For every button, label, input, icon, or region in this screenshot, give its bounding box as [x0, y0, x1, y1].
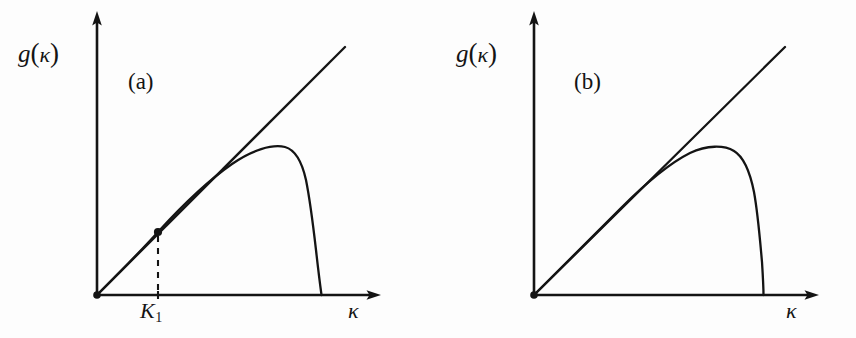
- panel-a-y-axis-label-kappa: κ: [40, 42, 51, 67]
- panel-b-label: (b): [574, 70, 601, 93]
- panel-a-label: (a): [128, 70, 154, 93]
- panel-b-y-axis: [529, 11, 539, 295]
- panel-a-x-axis-label: κ: [348, 300, 359, 322]
- panel-a-origin-dot: [93, 291, 101, 299]
- panel-b-x-axis-label: κ: [786, 300, 797, 322]
- panel-a-tick-label-base: K: [140, 298, 155, 323]
- panel-a-tick-label-k1: K1: [140, 300, 162, 325]
- panel-b-y-axis-label-kappa: κ: [478, 42, 489, 67]
- panel-b-y-axis-label-close-paren: ): [488, 38, 497, 68]
- panel-a-tangency-dot: [154, 228, 162, 236]
- panel-b-y-axis-label-open-paren: (: [469, 38, 478, 68]
- panel-a-plot: [0, 0, 428, 338]
- panel-a-y-axis-label-g: g: [18, 40, 31, 67]
- panel-b-y-axis-label: g(κ): [456, 40, 497, 67]
- panel-a-y-axis: [92, 11, 102, 295]
- panel-a: g(κ) (a) K1 κ: [0, 0, 428, 338]
- panel-a-y-axis-label: g(κ): [18, 40, 59, 67]
- panel-b-origin-dot: [530, 291, 538, 299]
- panel-b-g-curve: [534, 147, 764, 295]
- panel-a-g-curve: [97, 146, 322, 295]
- panel-a-y-axis-label-open-paren: (: [31, 38, 40, 68]
- panel-b: g(κ) (b) κ: [428, 0, 856, 338]
- panel-b-y-axis-label-g: g: [456, 40, 469, 67]
- panel-b-x-axis: [534, 290, 819, 300]
- panel-a-y-axis-label-close-paren: ): [50, 38, 59, 68]
- figure-root: g(κ) (a) K1 κ g(κ) (b) κ: [0, 0, 856, 338]
- panel-a-tick-label-subscript: 1: [155, 310, 162, 325]
